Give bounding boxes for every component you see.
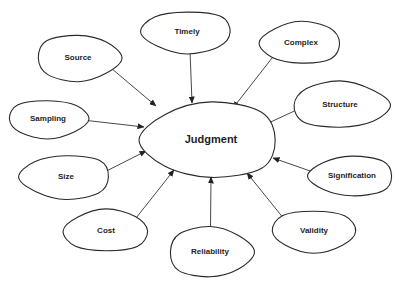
concept-diagram: SourceTimelyComplexStructureSamplingSize…: [0, 0, 399, 285]
sampling-label: Sampling: [30, 114, 66, 123]
edge-complex-to-judgment: [233, 57, 273, 108]
node-timely: Timely: [141, 12, 231, 54]
edge-size-to-judgment: [108, 151, 146, 170]
node-validity: Validity: [272, 211, 355, 253]
size-label: Size: [58, 172, 75, 181]
node-complex: Complex: [259, 21, 339, 63]
reliability-label: Reliability: [191, 247, 229, 256]
node-reliability: Reliability: [170, 226, 254, 276]
edge-reliability-to-judgment: [211, 177, 212, 228]
signification-label: Signification: [328, 171, 376, 180]
edge-cost-to-judgment: [137, 170, 174, 217]
node-size: Size: [19, 156, 109, 200]
edge-source-to-judgment: [113, 70, 156, 106]
cost-label: Cost: [97, 226, 115, 235]
edge-signification-to-judgment: [273, 158, 312, 172]
judgment-label: Judgment: [185, 133, 238, 145]
timely-label: Timely: [174, 27, 200, 36]
complex-label: Complex: [284, 38, 318, 47]
node-cost: Cost: [63, 209, 148, 251]
structure-label: Structure: [322, 100, 358, 109]
source-label: Source: [64, 53, 92, 62]
edge-sampling-to-judgment: [87, 121, 144, 128]
node-source: Source: [38, 35, 122, 81]
node-signification: Signification: [308, 156, 392, 196]
edge-timely-to-judgment: [190, 53, 192, 104]
validity-label: Validity: [300, 226, 329, 235]
node-sampling: Sampling: [9, 101, 89, 139]
edge-validity-to-judgment: [247, 173, 283, 218]
center-node: Judgment: [139, 102, 275, 178]
node-structure: Structure: [294, 81, 390, 127]
